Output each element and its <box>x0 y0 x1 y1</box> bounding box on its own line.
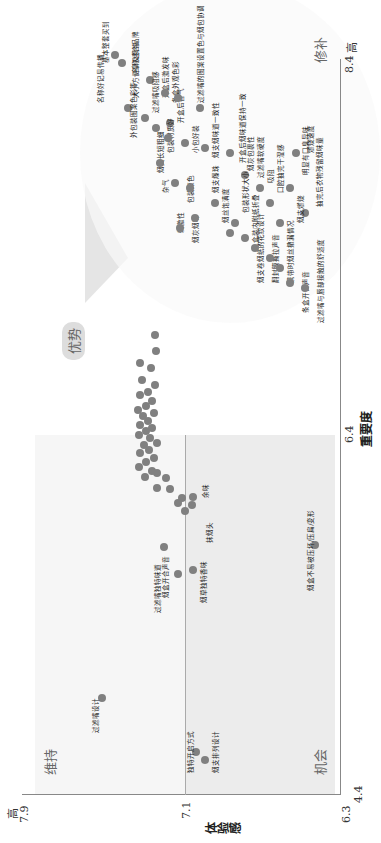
data-point[interactable] <box>161 89 169 97</box>
point-label: 小包好装 <box>190 125 200 153</box>
chart-canvas: 高 7.9 7.1 体验感 6.3 4.4 6.4 重要度 8.4 高 维持 机… <box>0 0 381 843</box>
data-point[interactable] <box>186 184 194 192</box>
point-label: 包装形状大小 <box>240 171 250 213</box>
y-tick-max: 7.9 <box>18 806 31 824</box>
data-point[interactable] <box>151 331 159 339</box>
data-point[interactable] <box>118 59 126 67</box>
point-label: 独特开启方式 <box>185 731 195 773</box>
data-point[interactable] <box>136 449 144 457</box>
data-point[interactable] <box>286 279 294 287</box>
data-point[interactable] <box>226 149 234 157</box>
data-point[interactable] <box>144 388 152 396</box>
point-label: 烟丝饱满度 <box>220 188 230 223</box>
data-point[interactable] <box>266 254 274 262</box>
data-point[interactable] <box>111 51 119 59</box>
data-point[interactable] <box>181 507 189 515</box>
data-point[interactable] <box>162 474 170 482</box>
point-label: 烟灰包裹性 <box>245 136 255 171</box>
point-label: 余味 <box>200 484 210 498</box>
data-point[interactable] <box>256 184 264 192</box>
point-label: 烟支排列设计 <box>210 731 220 773</box>
point-label: 名称好记易传播 <box>95 54 105 103</box>
data-point[interactable] <box>152 347 160 355</box>
data-point[interactable] <box>151 381 159 389</box>
data-point[interactable] <box>142 402 150 410</box>
point-label: 条盒开合声音 <box>300 271 310 313</box>
data-point[interactable] <box>201 756 209 764</box>
x-axis-line <box>340 59 341 795</box>
data-point[interactable] <box>251 244 259 252</box>
data-point[interactable] <box>292 149 300 157</box>
point-label: 携带时烟丝撒漏情况 <box>285 220 295 283</box>
data-point[interactable] <box>174 570 182 578</box>
y-tick-mid: 7.1 <box>180 802 193 820</box>
point-label: 过滤嘴与唇部接触的舒适度 <box>315 239 325 323</box>
data-point[interactable] <box>138 376 146 384</box>
data-point[interactable] <box>160 543 168 551</box>
data-point[interactable] <box>241 234 249 242</box>
data-point[interactable] <box>266 199 274 207</box>
data-point[interactable] <box>153 439 161 447</box>
point-label: 过滤嘴的图案设置色与烟包协调 <box>195 5 205 103</box>
x-tick-mid: 6.4 <box>343 426 356 444</box>
data-point[interactable] <box>171 179 179 187</box>
data-point[interactable] <box>226 229 234 237</box>
data-point[interactable] <box>135 463 143 471</box>
y-tick-min: 6.3 <box>340 806 353 824</box>
point-label: 抽完后衣物残留烟味量 <box>314 137 324 207</box>
data-point[interactable] <box>141 473 149 481</box>
data-point[interactable] <box>276 219 284 227</box>
quadrant-label-repair: 修补 <box>310 37 329 63</box>
point-label: 明显有口臭异味 <box>300 126 310 175</box>
data-point[interactable] <box>178 494 186 502</box>
data-point[interactable] <box>176 224 184 232</box>
data-point[interactable] <box>201 144 209 152</box>
data-point[interactable] <box>156 159 164 167</box>
point-label: 过滤嘴设计 <box>90 698 100 733</box>
data-point[interactable] <box>136 359 144 367</box>
point-label: 外包装图案色彩等 <box>128 82 138 138</box>
point-label: 烟支爆珠 <box>210 165 220 193</box>
data-point[interactable] <box>153 484 161 492</box>
point-label: 吸阻 <box>265 169 275 183</box>
point-label: 过滤嘴软硬度 <box>255 136 265 178</box>
point-label: 烟草独特香味 <box>198 561 208 603</box>
point-label: 抹烟头 <box>204 522 214 543</box>
data-point[interactable] <box>166 485 174 493</box>
data-point[interactable] <box>301 284 309 292</box>
data-point[interactable] <box>189 493 197 501</box>
data-point[interactable] <box>196 104 204 112</box>
point-label: 过滤嘴独特味道 <box>152 564 162 613</box>
data-point[interactable] <box>141 114 149 122</box>
y-axis-line <box>22 794 340 795</box>
quadrant-label-maintain: 维持 <box>40 749 59 775</box>
data-point[interactable] <box>276 264 284 272</box>
data-point[interactable] <box>142 458 150 466</box>
point-label: 口腔抽完干湿感 <box>275 144 285 193</box>
data-point[interactable] <box>181 139 189 147</box>
point-label: 烟支烟味道一致性 <box>210 102 220 158</box>
data-point[interactable] <box>150 454 158 462</box>
data-point[interactable] <box>286 184 294 192</box>
data-point[interactable] <box>188 501 196 509</box>
quadrant-label-advantage: 优势 <box>62 322 85 360</box>
data-point[interactable] <box>135 431 143 439</box>
point-label: 烟盒不易被压坏/压扁/变形 <box>305 510 315 591</box>
point-label: 过滤嘴吸阻感 <box>150 71 160 113</box>
point-label: 杂气 <box>160 179 170 193</box>
data-point[interactable] <box>189 566 197 574</box>
data-point[interactable] <box>211 199 219 207</box>
x-high-label: 高 <box>343 42 359 53</box>
data-point[interactable] <box>136 391 144 399</box>
data-point[interactable] <box>150 409 158 417</box>
data-point[interactable] <box>174 94 182 102</box>
y-axis-title: 体验感 <box>205 820 241 837</box>
data-point[interactable] <box>147 364 155 372</box>
data-point[interactable] <box>231 219 239 227</box>
data-point[interactable] <box>164 134 172 142</box>
data-point[interactable] <box>153 469 161 477</box>
x-tick-max: 8.4 <box>343 56 356 74</box>
data-point[interactable] <box>145 446 153 454</box>
data-point[interactable] <box>191 214 199 222</box>
quadrant-label-opportunity: 机会 <box>310 749 329 775</box>
